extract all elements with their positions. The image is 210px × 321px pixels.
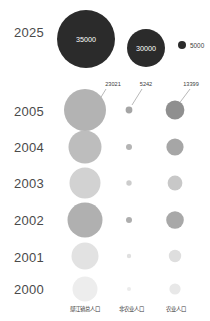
chart-row-2005: 2005 (14, 89, 184, 131)
row-year-label-2003: 2003 (14, 176, 44, 191)
bubble-2001-total[interactable] (72, 243, 99, 270)
series-legend: 鄢江镇总人口 非农业人口 农业人口 (70, 305, 186, 313)
callout-line-nonagri (132, 89, 142, 105)
row-year-label-2002: 2002 (14, 213, 44, 228)
bubble-chart-canvas: 2025 35000 30000 5000 23021 5242 13399 2… (0, 0, 210, 321)
series-label-total: 鄢江镇总人口 (70, 305, 100, 313)
bubble-2004-nonagri[interactable] (126, 144, 132, 150)
bubble-2000-total[interactable] (73, 277, 98, 302)
row-year-label-2001: 2001 (14, 250, 44, 265)
row-year-label-2000: 2000 (14, 282, 44, 297)
bubble-2000-nonagri[interactable] (127, 287, 131, 291)
size-legend-bubble-medium-value: 30000 (136, 44, 156, 53)
size-legend-year-label: 2025 (14, 25, 44, 40)
row-year-label-2005: 2005 (14, 104, 44, 119)
series-label-agri: 农业人口 (166, 305, 186, 313)
bubble-2002-nonagri[interactable] (126, 217, 132, 223)
size-legend-bubble-small[interactable] (178, 41, 186, 49)
callout-value-nonagri: 5242 (140, 81, 152, 87)
callout-value-total: 23021 (105, 81, 121, 87)
bubble-chart-root: 2025 35000 30000 5000 23021 5242 13399 2… (0, 0, 210, 321)
chart-row-2000: 2000 (14, 277, 181, 302)
series-label-nonagri: 非农业人口 (119, 305, 144, 313)
bubble-2004-total[interactable] (69, 131, 102, 164)
callout-group: 23021 5242 13399 (95, 81, 199, 107)
bubble-2001-agri[interactable] (169, 250, 181, 262)
bubble-2002-agri[interactable] (166, 211, 184, 229)
size-legend-bubble-small-value: 5000 (190, 42, 205, 49)
bubble-2005-nonagri[interactable] (126, 107, 133, 114)
chart-row-2002: 2002 (14, 203, 184, 238)
bubble-2002-total[interactable] (68, 203, 103, 238)
chart-row-2004: 2004 (14, 131, 184, 164)
bubble-2001-nonagri[interactable] (127, 254, 131, 258)
bubble-2003-nonagri[interactable] (126, 180, 131, 185)
bubble-2005-agri[interactable] (166, 101, 185, 120)
bubble-2003-total[interactable] (70, 168, 101, 199)
bubble-2004-agri[interactable] (166, 138, 183, 155)
bubble-2000-agri[interactable] (169, 283, 180, 294)
chart-row-2001: 2001 (14, 243, 181, 270)
callout-value-agri: 13399 (183, 81, 199, 87)
bubble-2005-total[interactable] (64, 89, 106, 131)
row-year-label-2004: 2004 (14, 140, 44, 155)
bubble-2003-agri[interactable] (168, 176, 183, 191)
size-legend: 2025 35000 30000 5000 (14, 10, 205, 68)
size-legend-bubble-large-value: 35000 (76, 35, 96, 44)
chart-row-2003: 2003 (14, 168, 182, 199)
